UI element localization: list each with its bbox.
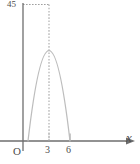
x-axis-label: x bbox=[126, 131, 132, 144]
parabola-chart-figure: 45 O 3 6 x bbox=[0, 0, 140, 164]
x-tick-label-3: 3 bbox=[45, 145, 50, 155]
y-axis-max-label: 45 bbox=[7, 0, 16, 9]
chart-plot-area bbox=[0, 0, 140, 164]
x-tick-label-6: 6 bbox=[66, 145, 71, 155]
origin-label: O bbox=[13, 146, 21, 157]
